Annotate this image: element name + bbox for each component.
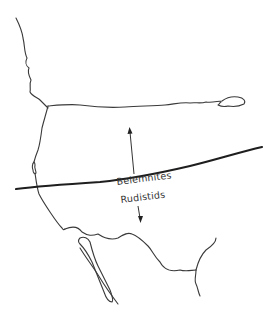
baja-outline bbox=[79, 237, 113, 302]
paleogeographic-map: Belemnites Rudistids bbox=[0, 0, 276, 321]
north-arrow-shaft bbox=[130, 132, 134, 174]
southwest-coastline bbox=[35, 173, 65, 230]
south-arrowhead-icon bbox=[138, 216, 143, 223]
northwest-coastline bbox=[16, 18, 48, 108]
label-belemnites: Belemnites bbox=[116, 169, 172, 187]
north-arrowhead-icon bbox=[128, 127, 133, 134]
northern-seaway-margin bbox=[48, 97, 245, 108]
coastal-inlet bbox=[32, 162, 36, 174]
mainland-mexico-west bbox=[80, 248, 118, 304]
label-rudistids: Rudistids bbox=[120, 189, 166, 205]
gulf-coast-south bbox=[195, 270, 200, 296]
gulf-coast bbox=[196, 238, 216, 270]
west-coastline bbox=[34, 106, 48, 162]
